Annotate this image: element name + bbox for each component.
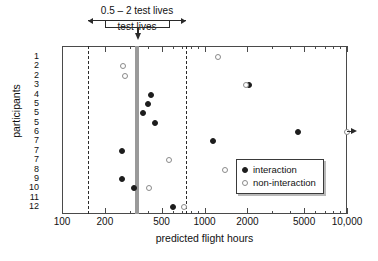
x-axis-minor-tick (272, 46, 273, 49)
x-axis-minor-tick (333, 211, 334, 214)
x-axis-minor-tick (315, 46, 316, 49)
y-axis-tick-label: 7 (34, 155, 39, 164)
reference-line-lower (88, 46, 89, 214)
legend-item-interaction: interaction (242, 163, 316, 176)
x-axis-minor-tick (148, 211, 149, 214)
x-axis-minor-tick (191, 46, 192, 49)
x-axis-minor-tick (130, 211, 131, 214)
x-axis-minor-tick (198, 46, 199, 49)
x-axis-minor-tick (191, 211, 192, 214)
x-axis-major-tick (62, 208, 63, 214)
x-axis-tick-label: 10,000 (332, 216, 363, 227)
open-circle-icon (242, 180, 248, 186)
x-axis-minor-tick (130, 46, 131, 49)
x-axis-minor-tick (182, 46, 183, 49)
data-point-non-interaction (166, 157, 172, 163)
x-axis-major-tick (247, 208, 248, 214)
x-axis-tick-label: 100 (54, 216, 71, 227)
x-axis-tick-label: 200 (97, 216, 114, 227)
data-point-non-interaction (243, 82, 249, 88)
data-point-non-interaction (122, 73, 128, 79)
x-axis-minor-tick (325, 211, 326, 214)
x-axis-minor-tick (290, 46, 291, 49)
filled-circle-icon (242, 167, 248, 173)
x-axis-minor-tick (148, 46, 149, 49)
x-axis-minor-tick (290, 211, 291, 214)
y-axis-tick-label: 3 (34, 80, 39, 89)
x-axis-major-tick (347, 208, 348, 214)
x-axis-major-tick (62, 46, 63, 52)
x-axis-major-tick (247, 46, 248, 52)
upper-band-label: 0.5 – 2 test lives (101, 5, 173, 16)
x-axis-tick-label: 5000 (293, 216, 315, 227)
x-axis-major-tick (205, 46, 206, 52)
data-point-interaction (152, 120, 158, 126)
legend: interaction non-interaction (236, 159, 324, 194)
x-axis-tick-label: 500 (153, 216, 170, 227)
x-axis-minor-tick (272, 211, 273, 214)
x-axis-major-tick (162, 46, 163, 52)
x-axis-minor-tick (315, 211, 316, 214)
x-axis-tick-label: 1000 (193, 216, 215, 227)
chart-canvas: 0.5 – 2 test lives test lives participan… (0, 0, 378, 261)
upper-band-right-arrow-icon (181, 18, 186, 24)
y-axis-tick-label: 10 (29, 183, 39, 192)
x-axis-major-tick (105, 46, 106, 52)
x-axis-title: predicted flight hours (62, 232, 347, 244)
x-axis-major-tick (347, 46, 348, 52)
nominal-marker-arrow-icon (135, 33, 141, 40)
x-axis-major-tick (304, 46, 305, 52)
y-axis-tick-labels: 12234555677789101112 (0, 46, 58, 214)
legend-label-non-interaction: non-interaction (253, 177, 316, 188)
x-axis-minor-tick (333, 46, 334, 49)
reference-line-upper (186, 46, 187, 214)
x-axis-major-tick (162, 208, 163, 214)
x-axis-minor-tick (340, 211, 341, 214)
x-axis-minor-tick (198, 211, 199, 214)
data-point-interaction (295, 129, 301, 135)
data-point-non-interaction (222, 167, 228, 173)
y-axis-tick-label: 12 (29, 202, 39, 211)
x-axis-major-tick (205, 208, 206, 214)
data-point-interaction (170, 204, 176, 210)
x-axis-minor-tick (325, 46, 326, 49)
offscale-arrow-icon (351, 128, 357, 134)
data-point-interaction (145, 101, 151, 107)
x-axis-minor-tick (182, 211, 183, 214)
x-axis-minor-tick (173, 211, 174, 214)
lower-band-right-cap (169, 21, 170, 28)
x-axis-major-tick (105, 208, 106, 214)
legend-label-interaction: interaction (253, 164, 297, 175)
x-axis-major-tick (304, 208, 305, 214)
legend-item-non-interaction: non-interaction (242, 176, 316, 189)
y-axis-tick-label: 5 (34, 108, 39, 117)
upper-band-left-arrow-icon (88, 18, 93, 24)
x-axis-minor-tick (340, 46, 341, 49)
data-point-interaction (148, 92, 154, 98)
x-axis-tick-label: 2000 (236, 216, 258, 227)
x-axis-minor-tick (173, 46, 174, 49)
